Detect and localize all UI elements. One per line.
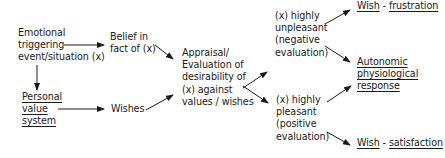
node-line: (positive <box>276 118 329 130</box>
node-text-satisfaction: satisfaction <box>389 137 443 148</box>
edge-belief-appraisal <box>155 45 173 59</box>
node-line: Appraisal/ <box>182 47 254 59</box>
node-line: triggering <box>18 39 105 51</box>
node-line: Personal <box>22 91 62 103</box>
node-text-wish: Wish <box>357 137 380 148</box>
edge-pleasant-autonomic <box>327 86 351 102</box>
node-line: (negative <box>275 34 328 46</box>
node-text-wish: Wish <box>357 0 380 11</box>
node-text-frustration: frustration <box>389 0 438 11</box>
node-line: event/situation (x) <box>18 51 105 63</box>
node-line: system <box>22 115 62 127</box>
node-appraisal: Appraisal/ Evaluation of desirability of… <box>182 47 254 108</box>
node-line: response <box>357 80 418 92</box>
node-unpleasant: (x) highly unpleasant (negative evaluati… <box>275 10 328 59</box>
node-belief: Belief in fact of (x) <box>110 31 156 55</box>
node-line: desirability of <box>182 71 254 83</box>
node-line: value <box>22 103 62 115</box>
node-pleasant: (x) highly pleasant (positive evaluation… <box>276 94 329 143</box>
node-wish-frustration: Wish - frustration <box>357 0 438 12</box>
node-line: evaluation) <box>275 47 328 59</box>
node-separator: - <box>380 137 389 148</box>
edge-wishes-appraisal <box>146 95 173 110</box>
node-line: fact of (x) <box>110 43 156 55</box>
node-line: Evaluation of <box>182 59 254 71</box>
node-wish-satisfaction: Wish - satisfaction <box>357 137 443 149</box>
node-triggering-event: Emotional triggering event/situation (x) <box>18 27 105 64</box>
node-line: evaluation) <box>276 131 329 143</box>
node-autonomic-response: Autonomic physiological response <box>357 56 418 93</box>
edge-pleasant-satisfaction <box>327 132 350 145</box>
node-line: Belief in <box>110 31 156 43</box>
node-line: values / wishes <box>182 96 254 108</box>
node-line: Emotional <box>18 27 105 39</box>
node-personal-value-system: Personal value system <box>22 91 62 128</box>
node-line: (x) against <box>182 84 254 96</box>
node-separator: - <box>380 0 389 11</box>
node-line: (x) highly <box>276 94 329 106</box>
node-line: pleasant <box>276 106 329 118</box>
node-line: (x) highly <box>275 10 328 22</box>
node-line: Wishes <box>111 103 144 115</box>
node-line: physiological <box>357 68 418 80</box>
node-wishes: Wishes <box>111 103 144 115</box>
edge-unpleasant-frustration <box>325 10 350 24</box>
edge-unpleasant-autonomic <box>325 46 350 62</box>
node-line: Autonomic <box>357 56 418 68</box>
node-line: unpleasant <box>275 22 328 34</box>
